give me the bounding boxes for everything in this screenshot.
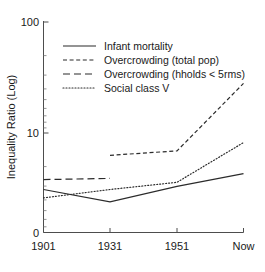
y-tick-label-0: 0 <box>33 227 39 239</box>
series-social-class-v <box>44 143 244 198</box>
legend-label-overcrowding-hholds: Overcrowding (hholds < 5rms) <box>104 68 245 80</box>
inequality-ratio-chart: 100 10 0 1901 1931 1951 Now Inequality R… <box>0 0 265 272</box>
x-tick-label-1951: 1951 <box>165 240 189 252</box>
chart-canvas: 100 10 0 1901 1931 1951 Now Inequality R… <box>0 0 265 272</box>
legend-label-overcrowding-total-pop: Overcrowding (total pop) <box>104 54 219 66</box>
legend-label-infant-mortality: Infant mortality <box>104 40 174 52</box>
legend-label-social-class-v: Social class V <box>104 82 169 94</box>
y-tick-label-100: 100 <box>21 16 39 28</box>
x-tick-label-1931: 1931 <box>98 240 122 252</box>
series-infant-mortality <box>44 174 244 202</box>
x-axis-ticks <box>44 228 244 233</box>
series-group <box>44 83 244 201</box>
chart-legend: Infant mortality Overcrowding (total pop… <box>63 40 245 94</box>
y-tick-label-10: 10 <box>27 127 39 139</box>
x-tick-label-1901: 1901 <box>31 240 55 252</box>
series-overcrowding-hholds-5rms <box>44 178 111 179</box>
x-tick-label-now: Now <box>232 240 254 252</box>
y-axis-major-ticks <box>44 22 49 133</box>
series-overcrowding-total-pop <box>110 83 244 155</box>
y-axis-title: Inequality Ratio (Log) <box>5 75 17 180</box>
